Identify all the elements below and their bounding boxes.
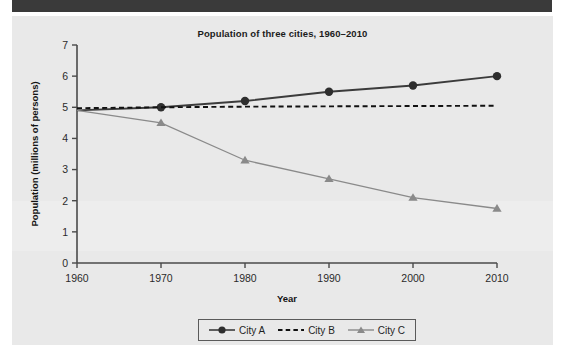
triangle-marker-icon <box>348 324 374 336</box>
y-tick-label: 7 <box>62 39 68 51</box>
legend-entry-city-c[interactable]: City C <box>348 324 405 336</box>
top-header-bar <box>12 0 552 12</box>
y-axis-title: Population (millions of persons) <box>29 81 40 226</box>
page-root: Population of three cities, 1960–2010 01… <box>0 0 565 361</box>
circle-marker-icon <box>209 324 235 336</box>
chart-legend: City A City B City C <box>198 319 416 341</box>
x-tick-label: 1980 <box>233 272 257 284</box>
data-point-marker <box>409 81 417 89</box>
chart-panel: Population of three cities, 1960–2010 01… <box>12 16 553 345</box>
y-tick-label: 6 <box>62 70 68 82</box>
legend-label-city-a: City A <box>239 325 265 336</box>
legend-entry-city-b[interactable]: City B <box>278 324 335 336</box>
y-tick-label: 5 <box>62 101 68 113</box>
data-point-marker <box>240 156 249 164</box>
data-point-marker <box>241 97 249 105</box>
x-tick-label: 2000 <box>401 272 425 284</box>
x-tick-label: 1990 <box>317 272 341 284</box>
x-tick-label: 1970 <box>149 272 173 284</box>
x-axis-title: Year <box>277 293 297 304</box>
x-tick-label: 1960 <box>65 272 89 284</box>
series-city-c <box>77 110 502 211</box>
y-tick-label: 2 <box>62 195 68 207</box>
y-tick-label: 4 <box>62 132 68 144</box>
legend-entry-city-a[interactable]: City A <box>209 324 265 336</box>
data-point-marker <box>493 72 501 80</box>
legend-label-city-c: City C <box>378 325 405 336</box>
y-tick-label: 3 <box>62 163 68 175</box>
x-axis: 196019701980199020002010 <box>65 263 509 284</box>
series-line <box>77 106 497 108</box>
data-point-marker <box>325 88 333 96</box>
y-tick-label: 1 <box>62 226 68 238</box>
y-axis: 01234567 <box>62 39 77 269</box>
data-series-layer <box>77 72 502 212</box>
dashed-line-icon <box>278 324 304 336</box>
line-chart-plot: 01234567 196019701980199020002010 Popula… <box>12 16 553 345</box>
y-tick-label: 0 <box>62 257 68 269</box>
series-line <box>77 110 497 208</box>
legend-label-city-b: City B <box>308 325 335 336</box>
x-tick-label: 2010 <box>485 272 509 284</box>
series-city-b <box>77 106 497 108</box>
